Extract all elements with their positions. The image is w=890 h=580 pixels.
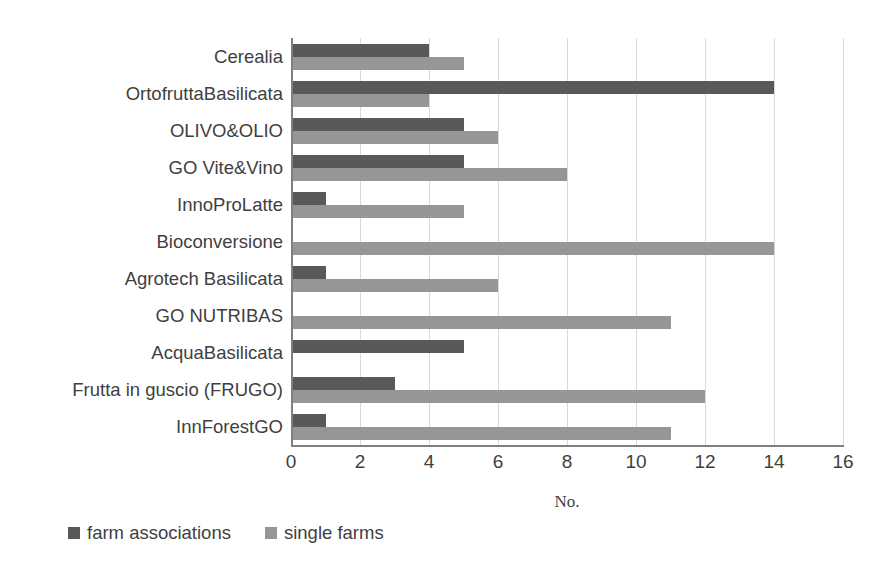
x-tick-label-2: 2 [355,452,366,471]
category-label: InnoProLatte [0,196,283,215]
bar-single-farms [291,427,671,440]
category-axis-labels: CerealiaOrtofruttaBasilicataOLIVO&OLIOGO… [0,38,283,445]
category-label: InnForestGO [0,418,283,437]
bar-group [291,44,843,70]
bar-group [291,414,843,440]
x-tick-label-10: 10 [625,452,646,471]
y-axis-line [291,38,293,446]
bar-single-farms [291,205,464,218]
bar-farm-associations [291,377,395,390]
x-axis-line [291,445,844,447]
x-tick-label-12: 12 [694,452,715,471]
bar-group [291,303,843,329]
category-label: GO Vite&Vino [0,159,283,178]
bar-single-farms [291,279,498,292]
x-tick-label-6: 6 [493,452,504,471]
category-label: Bioconversione [0,233,283,252]
bar-group [291,192,843,218]
legend-label: farm associations [87,524,231,543]
bar-farm-associations [291,44,429,57]
category-label: Cerealia [0,48,283,67]
bar-single-farms [291,57,464,70]
x-axis-title: No. [291,492,843,512]
bar-group [291,340,843,366]
bar-farm-associations [291,340,464,353]
legend-label: single farms [284,524,384,543]
gridline-16 [843,38,844,445]
x-tick-label-4: 4 [424,452,435,471]
plot-area [291,38,843,445]
bar-group [291,155,843,181]
x-tick-label-0: 0 [286,452,297,471]
x-tick-label-14: 14 [763,452,784,471]
bar-farm-associations [291,192,326,205]
bar-single-farms [291,94,429,107]
bar-farm-associations [291,118,464,131]
bar-farm-associations [291,414,326,427]
horizontal-bar-chart: CerealiaOrtofruttaBasilicataOLIVO&OLIOGO… [0,0,890,580]
category-label: OLIVO&OLIO [0,122,283,141]
legend-swatch-icon [68,527,80,539]
bar-farm-associations [291,81,774,94]
legend-item[interactable]: single farms [265,524,384,543]
bar-single-farms [291,242,774,255]
category-label: Agrotech Basilicata [0,270,283,289]
bar-single-farms [291,131,498,144]
bar-farm-associations [291,266,326,279]
bar-single-farms [291,316,671,329]
x-tick-label-8: 8 [562,452,573,471]
bar-single-farms [291,168,567,181]
category-label: OrtofruttaBasilicata [0,85,283,104]
bar-farm-associations [291,155,464,168]
legend-item[interactable]: farm associations [68,524,231,543]
category-label: AcquaBasilicata [0,344,283,363]
category-label: GO NUTRIBAS [0,307,283,326]
bar-single-farms [291,390,705,403]
bar-group [291,229,843,255]
x-tick-label-16: 16 [832,452,853,471]
legend-swatch-icon [265,527,277,539]
bar-group [291,81,843,107]
bar-group [291,118,843,144]
category-label: Frutta in guscio (FRUGO) [0,381,283,400]
bar-group [291,266,843,292]
bar-group [291,377,843,403]
chart-legend: farm associationssingle farms [68,524,384,543]
